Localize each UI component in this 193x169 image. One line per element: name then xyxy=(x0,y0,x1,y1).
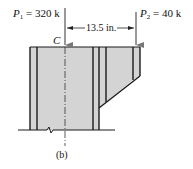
load-p1-label: P1 = 320 k xyxy=(12,7,60,21)
column-bracket-diagram: P1 = 320 k P2 = 40 k 13.5 in. C (b) xyxy=(0,0,193,169)
figure-label: (b) xyxy=(56,149,68,161)
load-p2-label: P2 = 40 k xyxy=(139,7,182,21)
column-body xyxy=(30,47,140,130)
dimension-label: 13.5 in. xyxy=(86,22,116,33)
centroid-label: C xyxy=(53,34,61,46)
